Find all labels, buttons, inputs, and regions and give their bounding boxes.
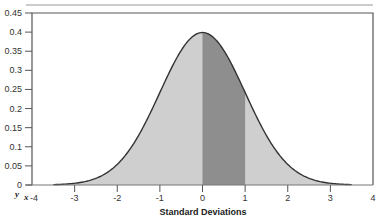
x-axis-title: Standard Deviations xyxy=(159,207,246,217)
y-tick-label: 0.2 xyxy=(9,104,22,114)
y-tick-label: 0.05 xyxy=(4,161,22,171)
corner-label-y: y xyxy=(14,189,20,199)
y-tick-label: 0.45 xyxy=(4,8,22,18)
normal-distribution-chart: 00.050.10.150.20.250.30.350.40.45 -4-3-2… xyxy=(0,0,379,221)
x-tick-label: 2 xyxy=(285,193,290,203)
x-tick-label: -4 xyxy=(30,193,38,203)
x-axis-ticks: -4-3-2-101234 xyxy=(30,185,376,203)
y-tick-label: 0.15 xyxy=(4,123,22,133)
x-tick-label: 4 xyxy=(370,193,375,203)
x-tick-label: 3 xyxy=(328,193,333,203)
y-tick-label: 0.3 xyxy=(9,65,22,75)
x-tick-label: -3 xyxy=(71,193,79,203)
x-tick-label: -2 xyxy=(113,193,121,203)
zero-to-one-sd-fill xyxy=(203,33,246,185)
corner-label-x: x xyxy=(23,192,29,202)
y-tick-label: 0.25 xyxy=(4,84,22,94)
y-axis-ticks: 00.050.10.150.20.250.30.350.40.45 xyxy=(4,8,32,190)
y-tick-label: 0.1 xyxy=(9,142,22,152)
y-tick-label: 0.4 xyxy=(9,27,22,37)
x-tick-label: 0 xyxy=(200,193,205,203)
y-tick-label: 0.35 xyxy=(4,46,22,56)
x-tick-label: -1 xyxy=(156,193,164,203)
x-tick-label: 1 xyxy=(243,193,248,203)
